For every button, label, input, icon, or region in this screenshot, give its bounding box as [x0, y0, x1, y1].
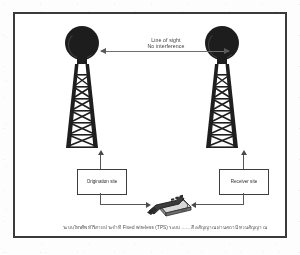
tower-lattice: [191, 64, 253, 148]
figure-canvas: Line of sight No interference Originatio…: [0, 0, 300, 255]
line-of-sight-link: [101, 51, 229, 52]
parabolic-dish-icon: [205, 26, 239, 60]
receiver-down-line: [243, 193, 244, 205]
receiver-site-label: Receiver site: [231, 179, 258, 185]
receiver-site-box: Receiver site: [219, 169, 269, 195]
arrow-up-icon: [98, 150, 104, 155]
origination-to-phone-line: [100, 204, 148, 205]
desk-telephone-icon: [143, 194, 193, 222]
receiver-to-tower-line: [243, 154, 244, 169]
los-label-line2: No interference: [125, 43, 207, 49]
origination-to-tower-line: [100, 154, 101, 169]
arrow-left-icon: [100, 48, 106, 54]
origination-site-box: Origination site: [77, 169, 127, 195]
tower-lattice: [51, 64, 113, 148]
arrow-up-icon: [241, 150, 247, 155]
arrow-right-icon: [224, 48, 230, 54]
figure-frame: Line of sight No interference Originatio…: [13, 12, 287, 238]
line-of-sight-label: Line of sight No interference: [125, 37, 207, 49]
figure-caption: ระบบโทรศัพท์ไร้สายประจำที่ Fixed wireles…: [37, 225, 293, 231]
parabolic-dish-icon: [65, 26, 99, 60]
receiver-to-phone-line: [195, 204, 243, 205]
left-tower: [51, 26, 113, 148]
origination-site-label: Origination site: [87, 179, 118, 185]
